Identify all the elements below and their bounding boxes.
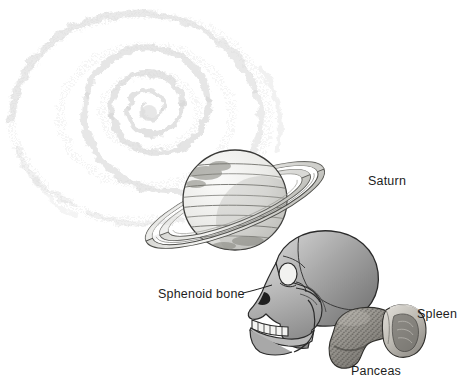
illustration-canvas: Saturn Sphenoid bone Spleen Panceas	[0, 0, 466, 391]
label-spleen: Spleen	[417, 308, 457, 321]
illustration-artwork	[0, 0, 466, 391]
label-saturn: Saturn	[368, 175, 406, 188]
label-panceas: Panceas	[351, 365, 401, 378]
label-sphenoid-bone: Sphenoid bone	[158, 288, 245, 301]
